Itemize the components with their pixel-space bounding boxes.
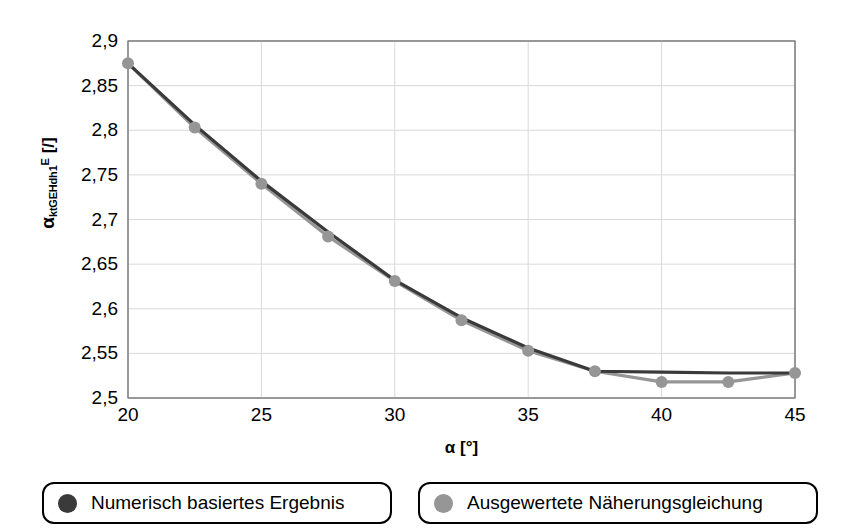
y-axis-tick-label: 2,9: [56, 31, 118, 50]
y-axis-superscript: E: [39, 158, 51, 165]
data-point-marker: [456, 314, 468, 326]
y-axis-unit: [/]: [39, 137, 58, 158]
legend-item-numerisch[interactable]: Numerisch basiertes Ergebnis: [42, 482, 392, 524]
legend-item-label: Numerisch basiertes Ergebnis: [91, 492, 344, 514]
data-point-marker: [255, 178, 267, 190]
y-axis-tick-label: 2,65: [56, 254, 118, 273]
y-axis-tick-label: 2,55: [56, 343, 118, 362]
x-axis-tick-label: 40: [632, 404, 692, 426]
x-axis-tick-label: 30: [365, 404, 425, 426]
data-point-marker: [722, 376, 734, 388]
x-axis-tick-label: 25: [231, 404, 291, 426]
x-axis-tick-label: 20: [98, 404, 158, 426]
chart-canvas: [0, 0, 842, 470]
y-axis-tick-labels: 2,52,552,62,652,72,752,82,852,9: [56, 0, 118, 470]
data-point-marker: [189, 122, 201, 134]
legend-marker-dot-icon: [58, 494, 77, 513]
y-axis-tick-label: 2,6: [56, 299, 118, 318]
chart-legend: Numerisch basiertes Ergebnis Ausgewertet…: [0, 478, 842, 532]
chart-figure: 2,52,552,62,652,72,752,82,852,9 20253035…: [0, 0, 842, 532]
plot-area: [0, 0, 842, 470]
data-point-marker: [522, 345, 534, 357]
legend-item-naeherungsgleichung[interactable]: Ausgewertete Näherungsgleichung: [418, 482, 818, 524]
y-axis-title: αktGEHdh1E [/]: [37, 73, 59, 293]
y-axis-symbol: α: [37, 217, 58, 229]
x-axis-unit: [°]: [455, 438, 478, 457]
x-axis-symbol: α: [445, 438, 455, 457]
y-axis-subscript: ktGEHdh1: [47, 165, 59, 217]
data-point-marker: [122, 57, 134, 69]
data-point-marker: [589, 365, 601, 377]
data-point-marker: [322, 230, 334, 242]
x-axis-tick-label: 35: [498, 404, 558, 426]
legend-item-label: Ausgewertete Näherungsgleichung: [467, 492, 763, 514]
x-axis-tick-label: 45: [765, 404, 825, 426]
data-point-marker: [389, 275, 401, 287]
y-axis-tick-label: 2,85: [56, 76, 118, 95]
data-point-marker: [789, 367, 801, 379]
x-axis-title: α [°]: [128, 438, 795, 458]
data-point-marker: [656, 376, 668, 388]
legend-marker-dot-icon: [434, 494, 453, 513]
y-axis-tick-label: 2,75: [56, 165, 118, 184]
y-axis-tick-label: 2,8: [56, 120, 118, 139]
y-axis-tick-label: 2,7: [56, 210, 118, 229]
